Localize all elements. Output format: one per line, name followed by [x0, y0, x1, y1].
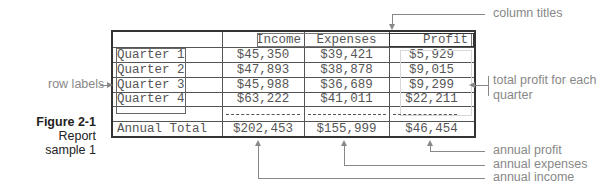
- income-cell: $47,893: [222, 62, 304, 77]
- income-cell: $63,222: [222, 92, 304, 106]
- expenses-cell: $36,689: [304, 77, 389, 92]
- expenses-cell: $38,878: [304, 62, 389, 77]
- total-expenses: $155,999: [304, 121, 389, 136]
- annotation-row-labels: row labels: [48, 77, 104, 91]
- figure-title: Report sample 1: [20, 129, 96, 157]
- annual-income-leader-line: [258, 178, 485, 179]
- total-profit: $46,454: [389, 121, 474, 136]
- annotation-annual-expenses: annual expenses: [493, 157, 588, 171]
- figure-caption: Figure 2-1 Report sample 1: [20, 115, 96, 157]
- annual-profit-leader-line: [430, 151, 485, 152]
- annual-expenses-leader-line: [344, 165, 485, 166]
- annotation-column-titles: column titles: [493, 6, 562, 20]
- total-income: $202,453: [222, 121, 304, 136]
- dashed-separator: [308, 114, 386, 115]
- income-cell: $45,350: [222, 47, 304, 62]
- annual-income-leader-line: [258, 145, 259, 179]
- report-table: Income Expenses Profit Quarter 1 $45,350…: [111, 30, 476, 138]
- profit-column-highlight: [400, 50, 472, 116]
- annotation-annual-profit: annual profit: [493, 143, 562, 157]
- total-profit-leader-line: [474, 85, 488, 86]
- income-cell: $45,988: [222, 77, 304, 92]
- figure-number: Figure 2-1: [20, 115, 96, 129]
- expenses-cell: $39,421: [304, 47, 389, 62]
- annual-expenses-leader-line: [344, 145, 345, 166]
- total-label: Annual Total: [113, 121, 222, 136]
- annotation-annual-income: annual income: [493, 170, 574, 184]
- column-titles-leader-line: [392, 14, 485, 15]
- dashed-separator: [226, 114, 300, 115]
- dashed-separator: [393, 114, 457, 115]
- expenses-cell: $41,011: [304, 92, 389, 106]
- arrow-right-icon: [107, 82, 113, 88]
- annotation-total-profit: total profit for each quarter: [493, 73, 597, 103]
- row-labels-highlight: [116, 48, 186, 114]
- total-profit-bracket: [488, 76, 489, 96]
- profit-header-box: [389, 33, 474, 47]
- arrow-down-icon: [389, 24, 395, 30]
